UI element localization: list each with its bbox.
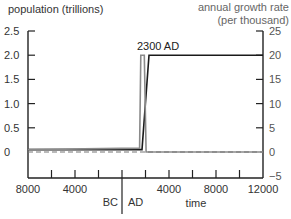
right-axis-ticks: −50510152025 [256,25,282,182]
x-tick-label: 12000 [248,183,279,195]
right-tick-label: 25 [269,25,281,37]
population-growth-chart: population (trillions) annual growth rat… [0,0,291,219]
x-tick-label: 4000 [63,183,87,195]
x-tick-label: 8000 [204,183,228,195]
annotation-2300ad: 2300 AD [137,40,179,52]
series-annual-growth-rate-per-thousand--line [28,55,263,152]
era-label-ad: AD [128,196,143,208]
x-axis-title: time [186,197,207,209]
left-axis-ticks: 00.51.01.52.02.5 [4,25,35,158]
left-tick-label: 0 [4,146,10,158]
left-tick-label: 0.5 [4,122,19,134]
left-axis-title: population (trillions) [8,3,103,15]
right-tick-label: 20 [269,49,281,61]
x-axis-ticks: 800040004000800012000 [16,170,279,195]
series-lines [28,55,263,152]
left-tick-label: 1.0 [4,98,19,110]
era-label-bc: BC [103,196,118,208]
right-tick-label: −5 [269,170,282,182]
right-tick-label: 15 [269,73,281,85]
right-tick-label: 0 [269,146,275,158]
left-tick-label: 2.5 [4,25,19,37]
right-axis-title-line1: annual growth rate [198,1,289,13]
left-tick-label: 1.5 [4,73,19,85]
x-tick-label: 8000 [16,183,40,195]
x-tick-label: 4000 [157,183,181,195]
right-tick-label: 10 [269,98,281,110]
left-tick-label: 2.0 [4,49,19,61]
right-tick-label: 5 [269,122,275,134]
